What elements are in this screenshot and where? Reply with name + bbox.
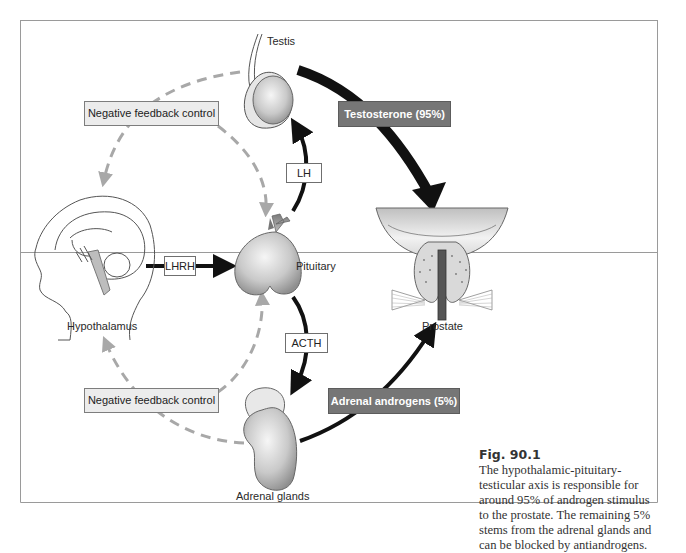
hypothalamus-label: Hypothalamus	[67, 320, 137, 332]
prostate-label: Prostate	[422, 320, 463, 332]
lhrh-label: LHRH	[164, 256, 196, 276]
testis-label: Testis	[267, 35, 295, 47]
prostate-illustration	[376, 208, 508, 320]
figure-caption-text: The hypothalamic-pituitary-testicular ax…	[479, 463, 659, 553]
figure-frame-top	[21, 21, 658, 253]
testis-illustration	[244, 34, 293, 128]
head-illustration	[35, 196, 155, 340]
acth-label: ACTH	[285, 333, 328, 353]
testosterone-label: Testosterone (95%)	[338, 101, 451, 127]
figure-caption: Fig. 90.1 The hypothalamic-pituitary-tes…	[479, 447, 659, 553]
adrenal-illustration	[244, 388, 297, 490]
pituitary-label: Pituitary	[296, 260, 336, 272]
lh-label: LH	[286, 163, 322, 183]
adrenal-androgens-label: Adrenal androgens (5%)	[328, 388, 460, 414]
figure-number: Fig. 90.1	[479, 447, 659, 462]
negative-feedback-top-label: Negative feedback control	[84, 101, 219, 126]
negative-feedback-bottom-label: Negative feedback control	[84, 388, 219, 413]
pituitary-illustration	[235, 214, 301, 295]
adrenal-glands-label: Adrenal glands	[236, 490, 309, 502]
